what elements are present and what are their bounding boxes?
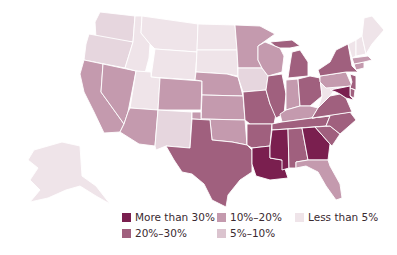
legend-item-more-than-30: More than 30% xyxy=(122,211,215,223)
legend-swatch xyxy=(122,229,131,238)
state-nd xyxy=(197,24,237,50)
state-nj xyxy=(350,74,356,90)
legend-label: 20%–30% xyxy=(135,227,187,239)
state-ar xyxy=(247,124,272,148)
legend-item-5-10: 5%–10% xyxy=(217,227,275,239)
legend-swatch xyxy=(122,213,131,222)
legend-swatch xyxy=(217,229,226,238)
state-ia xyxy=(238,68,268,92)
legend-item-20-30: 20%–30% xyxy=(122,227,187,239)
legend: More than 30% 20%–30% 10%–20% 5%–10% Les… xyxy=(122,211,392,251)
state-fl xyxy=(296,160,342,200)
state-ak xyxy=(28,142,110,204)
state-oh xyxy=(298,76,322,106)
legend-label: More than 30% xyxy=(135,211,215,223)
legend-label: Less than 5% xyxy=(308,211,378,223)
state-mi-lower xyxy=(288,50,308,78)
state-ma xyxy=(352,56,372,64)
state-nm xyxy=(155,110,192,150)
state-wy xyxy=(151,49,197,80)
legend-swatch xyxy=(217,213,226,222)
legend-swatch xyxy=(295,213,304,222)
legend-item-10-20: 10%–20% xyxy=(217,211,282,223)
legend-label: 10%–20% xyxy=(230,211,282,223)
legend-label: 5%–10% xyxy=(230,227,275,239)
state-co xyxy=(158,78,202,110)
legend-item-less-than-5: Less than 5% xyxy=(295,211,378,223)
state-me xyxy=(362,16,384,54)
state-ks xyxy=(201,95,245,120)
